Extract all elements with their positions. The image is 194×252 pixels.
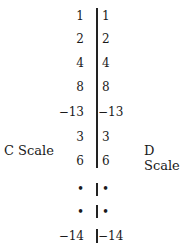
scale-divider-line bbox=[96, 8, 98, 168]
d-scale-value: 4 bbox=[102, 56, 110, 70]
d-scale-value: 3 bbox=[102, 130, 110, 144]
c-scale-value: 8 bbox=[76, 80, 84, 94]
d-scale-ellipsis-dot: • bbox=[102, 182, 109, 196]
d-scale-value: −14 bbox=[98, 229, 123, 243]
d-scale-value: 6 bbox=[102, 154, 110, 168]
scale-divider-segment bbox=[96, 183, 98, 196]
c-scale-value: 3 bbox=[76, 130, 84, 144]
d-scale-value: 2 bbox=[102, 32, 110, 46]
d-scale-value: 8 bbox=[102, 80, 110, 94]
c-scale-value: 6 bbox=[76, 154, 84, 168]
c-scale-label: C Scale bbox=[4, 143, 54, 158]
d-scale-value: 1 bbox=[102, 9, 110, 23]
d-scale-label: D Scale bbox=[144, 143, 194, 173]
c-scale-value: 1 bbox=[76, 9, 84, 23]
c-scale-value: 4 bbox=[76, 56, 84, 70]
scale-divider-segment bbox=[96, 205, 98, 218]
d-scale-value: −13 bbox=[98, 105, 123, 119]
c-scale-ellipsis-dot: • bbox=[77, 205, 84, 219]
d-scale-ellipsis-dot: • bbox=[102, 205, 109, 219]
c-scale-value: −13 bbox=[59, 105, 84, 119]
c-scale-ellipsis-dot: • bbox=[77, 182, 84, 196]
c-scale-value: 2 bbox=[76, 32, 84, 46]
c-scale-value: −14 bbox=[59, 229, 84, 243]
